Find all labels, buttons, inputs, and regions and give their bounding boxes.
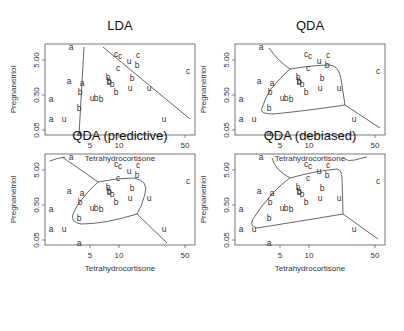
data-point-c: c	[186, 66, 191, 76]
x-tick-label: 10	[305, 251, 314, 260]
data-point-b: b	[267, 213, 272, 223]
panel-title: LDA	[107, 18, 133, 33]
y-tick-label: 5.00	[32, 162, 41, 178]
y-tick-label: 0.50	[32, 87, 41, 103]
data-point-b: b	[304, 87, 309, 97]
data-point-a: a	[239, 114, 244, 124]
data-point-b: b	[114, 197, 119, 207]
data-point-b: b	[320, 73, 325, 83]
data-point-b: b	[268, 87, 273, 97]
decision-boundary	[269, 48, 290, 69]
data-point-a: a	[49, 94, 54, 104]
data-point-b: b	[130, 183, 135, 193]
y-axis-label: Pregnanetriol	[9, 65, 18, 113]
y-tick-label: 0.05	[32, 232, 41, 248]
data-point-b: b	[78, 197, 83, 207]
data-point-b: b	[99, 204, 104, 214]
data-point-a: a	[49, 224, 54, 234]
data-point-a: a	[267, 238, 272, 248]
data-point-u: u	[62, 114, 67, 124]
y-tick-label: 0.05	[222, 122, 231, 138]
y-tick-label: 5.00	[222, 52, 231, 68]
data-point-u: u	[127, 56, 132, 66]
data-point-u: u	[318, 193, 323, 203]
data-point-c: c	[326, 50, 331, 60]
y-tick-label: 0.05	[222, 232, 231, 248]
data-point-u: u	[337, 193, 342, 203]
data-point-b: b	[77, 103, 82, 113]
y-axis-label: Pregnanetriol	[199, 175, 208, 223]
data-point-a: a	[69, 42, 74, 52]
data-point-u: u	[128, 193, 133, 203]
data-point-a: a	[67, 76, 72, 86]
data-point-u: u	[162, 224, 167, 234]
data-point-b: b	[135, 60, 140, 70]
data-point-a: a	[239, 224, 244, 234]
data-point-c: c	[306, 63, 311, 73]
y-tick-label: 0.50	[222, 87, 231, 103]
x-axis-label: Tetrahydrocortisone	[275, 264, 346, 273]
data-point-c: c	[376, 66, 381, 76]
panel-4: QDA (debiased)510505.000.500.05Tetrahydr…	[199, 128, 385, 273]
decision-boundary	[343, 214, 378, 239]
data-point-b: b	[77, 213, 82, 223]
y-tick-label: 5.00	[222, 162, 231, 178]
data-point-b: b	[267, 103, 272, 113]
data-point-b: b	[304, 197, 309, 207]
x-tick-label: 50	[371, 141, 380, 150]
data-point-b: b	[78, 87, 83, 97]
x-tick-label: 50	[181, 251, 190, 260]
data-point-a: a	[67, 186, 72, 196]
panel-title: QDA (debiased)	[264, 128, 357, 143]
x-axis-label: Tetrahydrocortisone	[85, 264, 156, 273]
data-point-c: c	[116, 63, 121, 73]
data-point-u: u	[252, 114, 257, 124]
y-tick-label: 0.05	[32, 122, 41, 138]
decision-boundary	[345, 105, 380, 128]
x-tick-label: 50	[181, 141, 190, 150]
data-point-u: u	[337, 83, 342, 93]
data-point-b: b	[130, 73, 135, 83]
data-point-b: b	[325, 60, 330, 70]
data-point-a: a	[239, 94, 244, 104]
data-point-a: a	[49, 114, 54, 124]
x-tick-label: 50	[371, 251, 380, 260]
y-tick-label: 5.00	[32, 52, 41, 68]
panel-3: QDA (predictive)510505.000.500.05Tetrahy…	[9, 128, 195, 273]
data-point-u: u	[162, 114, 167, 124]
panel-title: QDA (predictive)	[72, 128, 167, 143]
data-point-u: u	[318, 83, 323, 93]
chart-figure: LDA510505.000.500.05TetrahydrocortisoneP…	[0, 0, 404, 331]
y-axis-label: Pregnanetriol	[199, 65, 208, 113]
data-point-c: c	[116, 173, 121, 183]
x-tick-label: 10	[115, 251, 124, 260]
data-point-b: b	[289, 94, 294, 104]
data-point-a: a	[69, 152, 74, 162]
data-point-u: u	[352, 114, 357, 124]
data-point-c: c	[308, 51, 313, 61]
data-point-c: c	[118, 51, 123, 61]
panel-title: QDA	[296, 18, 325, 33]
data-point-u: u	[317, 56, 322, 66]
data-point-u: u	[128, 83, 133, 93]
data-point-u: u	[352, 224, 357, 234]
data-point-u: u	[317, 166, 322, 176]
x-tick-label: 5	[278, 251, 283, 260]
y-tick-label: 0.50	[32, 197, 41, 213]
data-point-a: a	[49, 204, 54, 214]
y-axis-label: Pregnanetriol	[9, 175, 18, 223]
data-point-u: u	[147, 83, 152, 93]
data-point-b: b	[289, 204, 294, 214]
data-point-a: a	[239, 204, 244, 214]
data-point-b: b	[320, 183, 325, 193]
data-point-a: a	[259, 152, 264, 162]
data-point-b: b	[135, 170, 140, 180]
y-tick-label: 0.50	[222, 197, 231, 213]
data-point-a: a	[77, 238, 82, 248]
decision-boundary	[343, 157, 367, 161]
data-point-b: b	[99, 94, 104, 104]
data-point-a: a	[259, 42, 264, 52]
data-point-u: u	[62, 224, 67, 234]
data-point-u: u	[252, 224, 257, 234]
data-point-a: a	[257, 76, 262, 86]
